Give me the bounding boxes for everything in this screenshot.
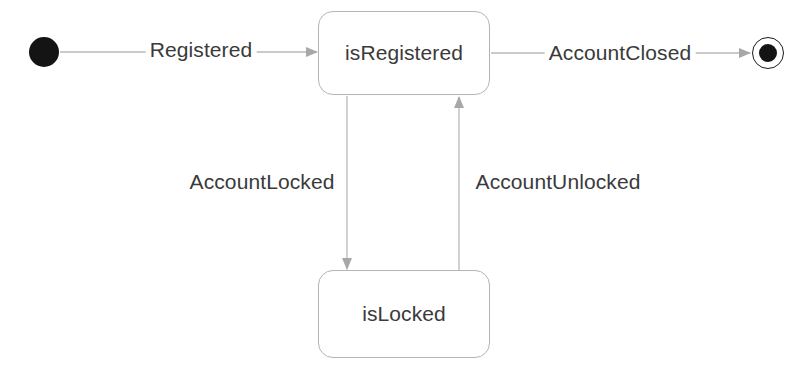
state-node-isregistered[interactable]: isRegistered (318, 11, 490, 95)
final-state-inner-dot (759, 44, 777, 62)
initial-state-node[interactable] (29, 37, 59, 67)
transition-label-registered: Registered (146, 38, 257, 62)
state-diagram-canvas: isRegistered isLocked Registered Account… (0, 0, 812, 378)
transition-label-accountlocked: AccountLocked (186, 170, 339, 194)
transition-label-accountclosed: AccountClosed (545, 41, 696, 65)
state-node-islocked[interactable]: isLocked (318, 270, 490, 358)
transition-label-accountunlocked: AccountUnlocked (472, 170, 645, 194)
state-label-islocked: isLocked (362, 302, 446, 326)
state-label-isregistered: isRegistered (345, 41, 463, 65)
